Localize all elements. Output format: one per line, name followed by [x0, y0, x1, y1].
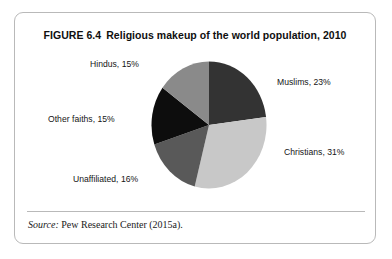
- pie-label-other-faiths: Other faiths, 15%: [48, 114, 115, 124]
- pie-label-unaffiliated: Unaffiliated, 16%: [73, 174, 138, 184]
- pie-slice-muslims: [209, 62, 266, 126]
- pie-slices: [151, 62, 266, 189]
- pie-label-muslims: Muslims, 23%: [277, 77, 331, 87]
- figure-number: FIGURE 6.4: [43, 29, 101, 41]
- pie-label-hindus: Hindus, 15%: [90, 59, 139, 69]
- pie-svg: [151, 61, 267, 189]
- figure-title: FIGURE 6.4Religious makeup of the world …: [15, 29, 375, 41]
- source-label: Source:: [28, 219, 59, 230]
- figure-title-text: Religious makeup of the world population…: [106, 29, 346, 41]
- pie-label-christians: Christians, 31%: [284, 147, 344, 157]
- source-citation: Pew Research Center (2015a).: [61, 219, 183, 230]
- pie-chart: Hindus, 15% Muslims, 23% Christians, 31%…: [15, 47, 377, 207]
- pie-graphic: [151, 61, 267, 189]
- figure-card: FIGURE 6.4Religious makeup of the world …: [14, 12, 376, 244]
- source-note: Source: Pew Research Center (2015a).: [28, 219, 183, 230]
- source-divider: [27, 211, 365, 212]
